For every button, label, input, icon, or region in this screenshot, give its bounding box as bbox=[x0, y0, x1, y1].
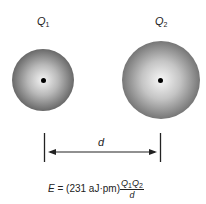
formula-numerator: Q1Q2 bbox=[120, 178, 144, 190]
num-q1: Q bbox=[121, 178, 128, 188]
num-s2: 2 bbox=[139, 182, 143, 189]
distance-arrow bbox=[0, 0, 206, 204]
formula-fraction: Q1Q2 d bbox=[120, 178, 144, 200]
formula-energy: E bbox=[48, 183, 55, 194]
formula-constant: = (231 aJ·pm) bbox=[55, 183, 120, 194]
coulomb-formula: E = (231 aJ·pm) Q1Q2 d bbox=[48, 178, 144, 200]
distance-label: d bbox=[98, 136, 104, 148]
formula-denominator: d bbox=[120, 190, 144, 200]
num-q2: Q bbox=[132, 178, 139, 188]
